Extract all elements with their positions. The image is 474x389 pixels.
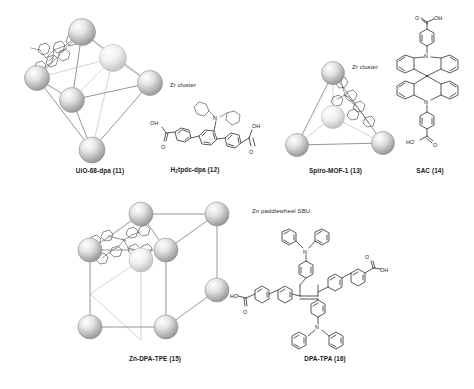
label-n-top: N (424, 53, 428, 59)
label-n-top: N (303, 249, 307, 255)
caption-spiro-mof: Spiro-MOF-1 (13) (283, 167, 388, 174)
sac-molecule-svg: O OH N (392, 12, 468, 164)
metal-node-base-left (286, 134, 309, 157)
figure-canvas: Zr cluster UiO-68-dpa (11) OH O N (0, 0, 474, 389)
metal-node-top (69, 19, 96, 46)
metal-node-left (25, 66, 50, 91)
metal-node-back-center (129, 248, 153, 272)
label-o-topright: O (365, 254, 369, 260)
label-n-bottom: N (315, 324, 319, 330)
caption-uio68: UiO-68-dpa (11) (40, 167, 160, 174)
label-o-bottomleft: O (243, 309, 247, 315)
label-oh-left: OH (150, 120, 158, 126)
label-o-left: O (161, 144, 165, 150)
metal-node-bottom-front-left (78, 315, 102, 339)
label-o-bottom: O (433, 142, 437, 148)
panel-spiro-mof-structure (285, 55, 395, 167)
metal-node-center (322, 106, 345, 129)
metal-node-top-back-left (129, 202, 153, 226)
metal-node-apex (322, 62, 345, 85)
metal-node-bottom-front-right (154, 315, 178, 339)
label-o-right: O (249, 149, 253, 155)
spiro-mof-tetrahedron-svg (285, 55, 395, 167)
metal-node-back (100, 45, 127, 72)
cube-front-edges (90, 214, 217, 327)
label-ho-bottomleft: HO (230, 293, 238, 299)
dpa-tpa-molecule-svg: N O OH (230, 228, 410, 354)
metal-node-top-front-right (154, 238, 178, 262)
annotation-zr-cluster-spiro: Zr cluster (352, 64, 378, 70)
label-n-bottom: N (424, 99, 428, 105)
h2tpdc-molecule-svg: OH O N (148, 100, 276, 162)
metal-node-top-back-right (205, 202, 229, 226)
caption-dpa-tpa: DPA-TPA (16) (275, 355, 375, 362)
label-oh-topright: OH (380, 267, 388, 273)
metal-node-bottom (79, 137, 105, 163)
metal-node-top-front-left (78, 238, 102, 262)
caption-h2tpdc-main: tpdc-dpa (12) (178, 166, 219, 173)
caption-sac: SAC (14) (400, 167, 460, 174)
label-oh-top: OH (434, 15, 442, 21)
metal-node-right (138, 71, 163, 96)
caption-zn-dpa-tpe: Zn-DPA-TPE (15) (95, 355, 215, 362)
metal-node-bottom-back-right (205, 278, 229, 302)
caption-h2tpdc: H2tpdc-dpa (12) (150, 166, 240, 174)
panel-h2tpdc-structure: OH O N (148, 100, 276, 162)
annotation-zr-cluster-uio68: Zr cluster (170, 82, 196, 88)
panel-sac-structure: O OH N (392, 12, 468, 164)
annotation-zn-paddlewheel-sbu: Zn paddlewheel SBU (252, 208, 310, 214)
label-ho-bottom: HO (406, 139, 414, 145)
metal-node-front (60, 88, 85, 113)
panel-dpa-tpa-structure: N O OH (230, 228, 410, 354)
label-o-top: O (415, 15, 419, 21)
label-oh-right: OH (252, 123, 260, 129)
